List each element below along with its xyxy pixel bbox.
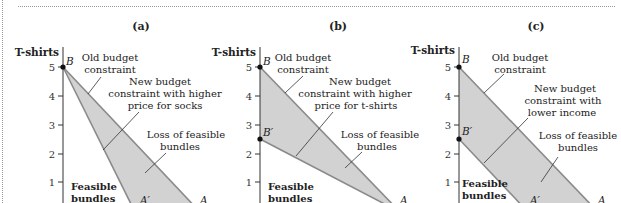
tick-4: 4 [246,91,252,102]
svg-text:price for t-shirts: price for t-shirts [315,100,398,111]
point-b [456,64,461,69]
panel-a-title: (a) [132,20,150,33]
svg-text:bundles: bundles [268,193,313,203]
y-ticks: 5 4 3 2 1 [49,62,63,188]
old-constraint-label: Old budget [82,52,139,63]
point-b-prime [257,136,262,141]
svg-text:constraint: constraint [277,64,329,75]
label-a-prime: A′ [139,194,151,203]
budget-constraint-figure: (a) T-shirts 5 4 3 2 1 B A′ A Old budget… [0,0,621,203]
label-b: B [461,53,470,65]
label-b-prime: B′ [262,126,274,138]
label-b: B [65,55,74,67]
panel-b: (b) T-shirts 5 4 3 2 1 B B′ A Old budget… [212,20,420,203]
label-a: A [199,194,208,203]
tick-2: 2 [49,149,55,160]
new-constraint-label: New budget [534,83,596,94]
tick-3: 3 [445,120,451,131]
label-a: A [597,194,606,203]
tick-2: 2 [246,149,252,160]
svg-text:bundles: bundles [462,190,507,201]
tick-2: 2 [445,149,451,160]
tick-5: 5 [246,62,252,73]
tick-1: 1 [246,177,252,188]
panel-a: (a) T-shirts 5 4 3 2 1 B A′ A Old budget… [15,20,226,203]
y-ticks: 5 4 3 2 1 [246,62,260,188]
old-constraint-label: Old budget [492,52,549,63]
svg-text:price for socks: price for socks [128,100,203,111]
old-leader-line [88,77,101,94]
tick-4: 4 [445,91,451,102]
point-b [257,64,262,69]
svg-text:constraint: constraint [494,64,546,75]
loss-label: Loss of feasible [341,129,420,140]
point-b-prime [456,136,461,141]
tick-4: 4 [49,91,55,102]
svg-text:bundles: bundles [558,142,598,153]
panel-c-title: (c) [527,20,544,33]
svg-text:lower income: lower income [528,107,596,118]
tick-1: 1 [49,177,55,188]
label-a-prime: A′ [529,194,541,203]
loss-label: Loss of feasible [147,129,226,140]
svg-text:constraint with: constraint with [524,95,602,106]
new-constraint-label: New budget [329,76,391,87]
feasible-label: Feasible [71,181,117,192]
panel-c: (c) T-shirts 5 4 3 2 1 B B′ A′ A Old bud… [411,20,618,203]
feasible-label: Feasible [462,178,508,189]
label-b: B [262,55,271,67]
label-a: A [399,194,408,203]
y-axis-label: T-shirts [212,46,256,58]
panel-b-title: (b) [329,20,347,33]
point-b [60,64,65,69]
new-constraint-label: New budget [129,76,191,87]
label-b-prime: B′ [461,125,473,137]
tick-3: 3 [49,120,55,131]
svg-text:bundles: bundles [71,193,116,203]
tick-5: 5 [49,62,55,73]
svg-text:constraint with higher: constraint with higher [298,88,412,99]
tick-3: 3 [246,120,252,131]
old-constraint-label: Old budget [275,52,332,63]
svg-text:bundles: bundles [160,141,200,152]
svg-text:bundles: bundles [357,141,397,152]
old-leader-line [484,74,504,93]
y-axis-label: T-shirts [411,44,455,56]
tick-1: 1 [445,177,451,188]
feasible-label: Feasible [268,181,314,192]
loss-label: Loss of feasible [539,130,618,141]
y-axis-label: T-shirts [15,46,59,58]
svg-text:constraint with higher: constraint with higher [108,88,222,99]
svg-text:constraint: constraint [84,64,136,75]
tick-5: 5 [445,62,451,73]
y-ticks: 5 4 3 2 1 [445,62,459,188]
